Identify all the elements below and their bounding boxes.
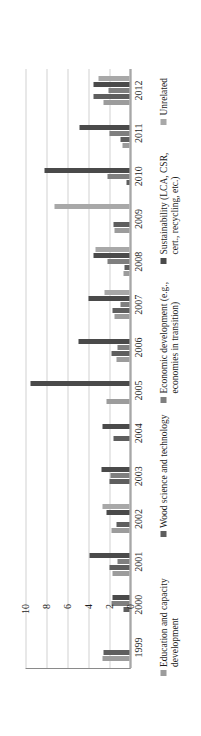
legend-swatch-icon bbox=[160, 119, 166, 125]
legend-item-2[interactable]: Economic development (e.g., economies in… bbox=[158, 276, 180, 403]
category-axis-labels: 1999200020012002200320042005200620072008… bbox=[132, 69, 154, 669]
y-tick-label-10: 10 bbox=[20, 604, 30, 630]
legend-item-0[interactable]: Education and capacity development bbox=[158, 549, 180, 676]
x-tick-label-1999: 1999 bbox=[132, 626, 154, 669]
bar bbox=[112, 571, 129, 576]
bar bbox=[117, 559, 129, 564]
chart-legend: Education and capacity developmentWood s… bbox=[158, 16, 198, 676]
x-tick-label-2008: 2008 bbox=[132, 240, 154, 283]
gridline-0 bbox=[130, 69, 131, 668]
legend-label: Sustainability (LCA, CSR, cert., recycli… bbox=[158, 137, 180, 255]
bar-groups bbox=[25, 69, 129, 668]
bar-group-2007 bbox=[25, 283, 129, 326]
bar bbox=[114, 314, 129, 319]
x-tick-label-2002: 2002 bbox=[132, 498, 154, 541]
bar bbox=[78, 339, 129, 344]
plot-area bbox=[25, 69, 130, 669]
bar bbox=[93, 94, 129, 99]
bar bbox=[126, 180, 129, 185]
bar bbox=[103, 650, 129, 655]
bar bbox=[109, 131, 129, 136]
bar bbox=[30, 381, 129, 386]
bar bbox=[54, 204, 129, 209]
x-tick-label-2007: 2007 bbox=[132, 283, 154, 326]
legend-item-3[interactable]: Sustainability (LCA, CSR, cert., recycli… bbox=[158, 137, 180, 264]
bar-group-2003 bbox=[25, 454, 129, 497]
y-tick-label-6: 6 bbox=[62, 604, 72, 630]
y-tick-label-4: 4 bbox=[83, 604, 93, 630]
bar bbox=[89, 553, 129, 558]
bar bbox=[108, 88, 129, 93]
bar bbox=[117, 345, 129, 350]
x-tick-label-2003: 2003 bbox=[132, 455, 154, 498]
bar-group-2001 bbox=[25, 540, 129, 583]
y-tick-label-2: 2 bbox=[104, 604, 114, 630]
bar bbox=[120, 137, 129, 142]
bar-group-2012 bbox=[25, 69, 129, 112]
legend-swatch-icon bbox=[160, 670, 166, 676]
bar bbox=[113, 436, 129, 441]
bar bbox=[122, 143, 129, 148]
x-tick-label-2001: 2001 bbox=[132, 540, 154, 583]
bar bbox=[104, 290, 129, 295]
bar bbox=[107, 174, 129, 179]
bar-group-2010 bbox=[25, 155, 129, 198]
bar bbox=[106, 510, 129, 515]
bar bbox=[101, 467, 129, 472]
bar bbox=[102, 424, 129, 429]
legend-label: Economic development (e.g., economies in… bbox=[158, 276, 180, 394]
bar bbox=[112, 308, 129, 313]
bar bbox=[113, 222, 129, 227]
bar bbox=[107, 259, 129, 264]
legend-item-1[interactable]: Wood science and technology bbox=[158, 415, 169, 537]
bar bbox=[98, 76, 130, 81]
legend-label: Wood science and technology bbox=[158, 415, 169, 528]
bar-group-2011 bbox=[25, 112, 129, 155]
x-tick-label-2005: 2005 bbox=[132, 369, 154, 412]
legend-swatch-icon bbox=[160, 397, 166, 403]
bar bbox=[116, 522, 129, 527]
chart-canvas: 0246810 19992000200120022003200420052006… bbox=[0, 0, 201, 736]
x-tick-label-2010: 2010 bbox=[132, 155, 154, 198]
bar-group-2006 bbox=[25, 326, 129, 369]
bar-group-2004 bbox=[25, 411, 129, 454]
bar-group-2009 bbox=[25, 197, 129, 240]
bar bbox=[116, 357, 129, 362]
x-tick-label-2004: 2004 bbox=[132, 412, 154, 455]
bar bbox=[109, 479, 129, 484]
x-tick-label-2000: 2000 bbox=[132, 583, 154, 626]
bar bbox=[44, 168, 129, 173]
bar bbox=[93, 253, 129, 258]
x-tick-label-2006: 2006 bbox=[132, 326, 154, 369]
bar bbox=[79, 125, 129, 130]
x-tick-label-2011: 2011 bbox=[132, 112, 154, 155]
bar bbox=[120, 302, 129, 307]
bar bbox=[103, 100, 129, 105]
legend-item-4[interactable]: Unrelated bbox=[158, 78, 169, 124]
bar bbox=[109, 565, 129, 570]
bar bbox=[88, 296, 129, 301]
bar-group-2002 bbox=[25, 497, 129, 540]
bar bbox=[106, 399, 129, 404]
x-tick-label-2009: 2009 bbox=[132, 198, 154, 241]
bar bbox=[111, 528, 129, 533]
legend-swatch-icon bbox=[160, 531, 166, 537]
bar bbox=[124, 265, 129, 270]
bar bbox=[95, 247, 129, 252]
rotated-chart-wrapper: 0246810 19992000200120022003200420052006… bbox=[0, 0, 201, 736]
bar bbox=[114, 228, 129, 233]
bar bbox=[123, 271, 129, 276]
bar-group-2005 bbox=[25, 369, 129, 412]
bar bbox=[102, 504, 129, 509]
bar bbox=[112, 595, 129, 600]
bar bbox=[110, 473, 129, 478]
x-tick-label-2012: 2012 bbox=[132, 69, 154, 112]
bar bbox=[102, 656, 129, 661]
legend-swatch-icon bbox=[160, 258, 166, 264]
bar-group-1999 bbox=[25, 625, 129, 668]
bar bbox=[93, 82, 129, 87]
legend-label: Unrelated bbox=[158, 78, 169, 115]
bar bbox=[111, 351, 129, 356]
y-tick-label-8: 8 bbox=[41, 604, 51, 630]
legend-label: Education and capacity development bbox=[158, 549, 180, 667]
